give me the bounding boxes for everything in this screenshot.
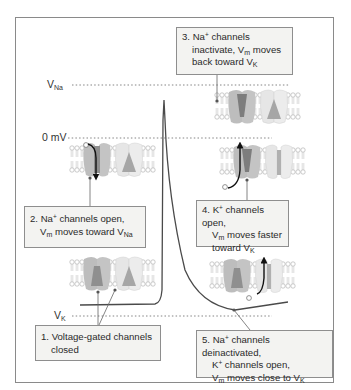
membrane-deinactivated: [210, 259, 295, 293]
membrane-inactivated: [215, 90, 300, 124]
callout-2-na-open: 2. Na+ channels open, Vm moves toward VN…: [24, 206, 146, 248]
k-ion-icon-5: [247, 296, 252, 301]
leader-dot-1a: [96, 290, 99, 293]
membrane-closed: [70, 257, 155, 291]
membrane-k-open: [220, 145, 305, 179]
leader-dot-5: [232, 308, 235, 311]
v-k-label: VK: [54, 310, 66, 322]
leader-line-5: [234, 310, 250, 330]
leader-dot-3: [215, 99, 218, 102]
leader-line-1b: [99, 290, 115, 325]
leader-dot-2: [88, 176, 91, 179]
leader-dot-1b: [113, 288, 116, 291]
callout-5-na-deinactivated: 5. Na+ channels deinactivated, K+ channe…: [196, 330, 333, 378]
callout-1-channels-closed: 1. Voltage-gated channels closed: [35, 325, 161, 361]
v-na-label: VNa: [47, 79, 63, 91]
na-ion-icon: [84, 143, 89, 148]
callout-3-na-inactivate: 3. Na+ channels inactivate, Vm moves bac…: [176, 27, 293, 75]
leader-dot-4: [245, 178, 248, 181]
action-potential-diagram: VNa 0 mV VK 3. Na+ channels inactivate, …: [0, 0, 351, 390]
zero-mv-label: 0 mV: [42, 132, 67, 143]
membrane-na-open: [70, 143, 155, 177]
callout-4-k-open: 4. K+ channels open, Vm moves faster tow…: [196, 200, 289, 247]
k-ion-icon-4: [223, 185, 228, 190]
